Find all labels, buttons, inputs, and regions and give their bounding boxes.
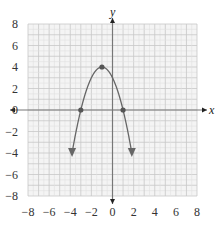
svg-text:4: 4 [152, 205, 158, 219]
svg-text:6: 6 [173, 205, 179, 219]
svg-text:4: 4 [12, 60, 18, 74]
svg-text:8: 8 [12, 17, 18, 31]
svg-text:6: 6 [12, 39, 18, 53]
svg-text:0: 0 [110, 205, 116, 219]
svg-text:2: 2 [12, 82, 18, 96]
svg-text:−2: −2 [5, 125, 18, 139]
svg-text:−8: −8 [5, 189, 18, 203]
svg-text:−2: −2 [85, 205, 98, 219]
svg-text:−4: −4 [5, 146, 18, 160]
y-axis-label: y [109, 5, 116, 19]
svg-text:0: 0 [12, 103, 18, 117]
svg-text:−6: −6 [5, 168, 18, 182]
svg-text:2: 2 [131, 205, 137, 219]
svg-text:−8: −8 [22, 205, 35, 219]
x-axis-label: x [208, 103, 215, 117]
coordinate-plane: −8−6−4−202468−8−6−4−202468 x y [0, 0, 223, 226]
svg-text:−6: −6 [43, 205, 56, 219]
svg-text:−4: −4 [64, 205, 77, 219]
svg-text:8: 8 [194, 205, 200, 219]
